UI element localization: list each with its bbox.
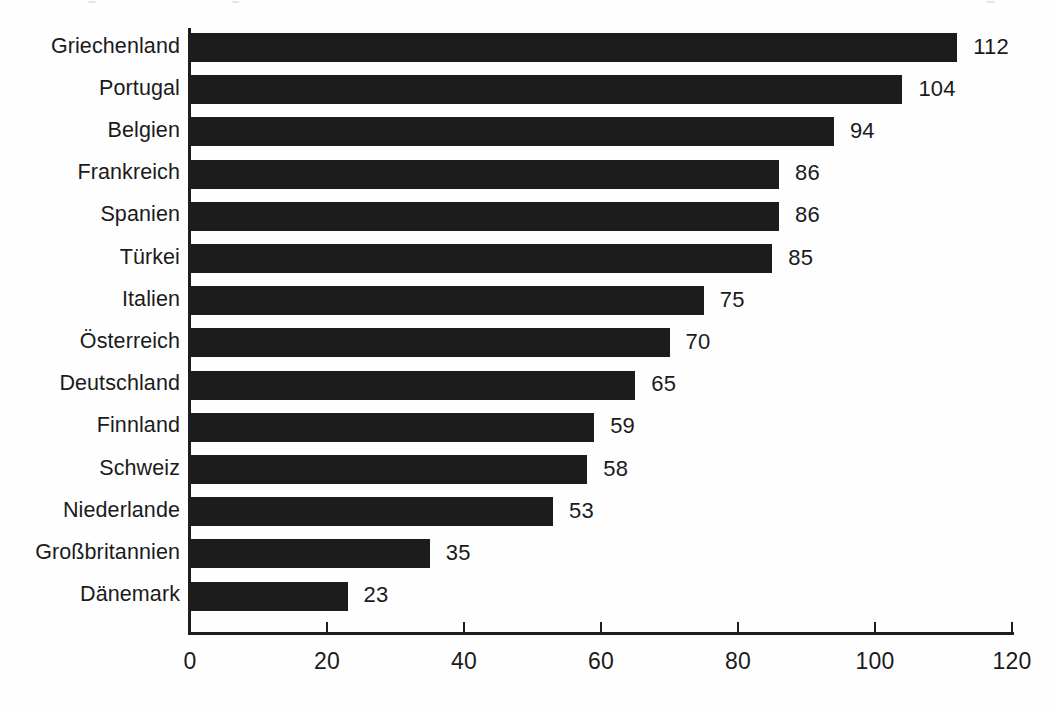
category-label: Portugal <box>99 76 180 101</box>
category-label: Finnland <box>97 413 180 438</box>
category-label: Frankreich <box>77 160 180 185</box>
bar-row: Deutschland65 <box>0 371 1057 400</box>
bar-row: Griechenland112 <box>0 33 1057 62</box>
bar-value-label: 94 <box>850 118 875 144</box>
x-axis-tick-label: 0 <box>184 648 197 675</box>
bar-row: Großbritannien35 <box>0 539 1057 568</box>
x-axis-tick <box>1011 622 1013 632</box>
category-label: Schweiz <box>99 456 180 481</box>
category-label: Deutschland <box>59 371 180 396</box>
bar-value-label: 65 <box>651 371 676 397</box>
x-axis-tick-label: 40 <box>451 648 477 675</box>
plot-area: 020406080100120Griechenland112Portugal10… <box>0 0 1057 710</box>
bar <box>190 160 779 189</box>
x-axis-tick-label: 120 <box>993 648 1032 675</box>
bar <box>190 75 902 104</box>
bar-value-label: 75 <box>720 287 745 313</box>
category-label: Österreich <box>80 329 180 354</box>
bar-row: Frankreich86 <box>0 160 1057 189</box>
bar <box>190 244 772 273</box>
category-label: Belgien <box>108 118 180 143</box>
bar-row: Österreich70 <box>0 328 1057 357</box>
bar <box>190 328 670 357</box>
bar-row: Finnland59 <box>0 413 1057 442</box>
category-label: Italien <box>122 287 180 312</box>
x-axis-tick <box>600 622 602 632</box>
bar-value-label: 70 <box>686 329 711 355</box>
x-axis-tick <box>463 622 465 632</box>
x-axis-line <box>188 632 1014 635</box>
bar-row: Niederlande53 <box>0 497 1057 526</box>
category-label: Türkei <box>120 245 180 270</box>
bar <box>190 117 834 146</box>
bar <box>190 371 635 400</box>
bar-row: Portugal104 <box>0 75 1057 104</box>
bar-chart: 020406080100120Griechenland112Portugal10… <box>0 0 1057 710</box>
bar <box>190 497 553 526</box>
bar <box>190 33 957 62</box>
category-label: Großbritannien <box>35 540 180 565</box>
x-axis-tick <box>326 622 328 632</box>
bar-row: Türkei85 <box>0 244 1057 273</box>
bar-row: Belgien94 <box>0 117 1057 146</box>
bar-value-label: 104 <box>918 76 955 102</box>
category-label: Spanien <box>100 202 180 227</box>
category-label: Dänemark <box>80 582 180 607</box>
bar-value-label: 86 <box>795 202 820 228</box>
bar <box>190 286 704 315</box>
bar-value-label: 112 <box>973 34 1009 60</box>
x-axis-tick <box>737 622 739 632</box>
bar-value-label: 53 <box>569 498 594 524</box>
bar-row: Spanien86 <box>0 202 1057 231</box>
bar-value-label: 59 <box>610 413 635 439</box>
x-axis-tick <box>874 622 876 632</box>
bar <box>190 202 779 231</box>
bar <box>190 539 430 568</box>
bar <box>190 413 594 442</box>
x-axis-tick-label: 60 <box>588 648 614 675</box>
x-axis-tick-label: 80 <box>725 648 751 675</box>
bar-row: Schweiz58 <box>0 455 1057 484</box>
bar-row: Dänemark23 <box>0 582 1057 611</box>
x-axis-tick-label: 100 <box>856 648 895 675</box>
category-label: Griechenland <box>51 34 180 59</box>
category-label: Niederlande <box>63 498 180 523</box>
bar-value-label: 86 <box>795 160 820 186</box>
bar <box>190 455 587 484</box>
bar-value-label: 85 <box>788 245 813 271</box>
x-axis-tick <box>189 622 191 632</box>
bar-value-label: 58 <box>603 456 628 482</box>
bar-value-label: 35 <box>446 540 471 566</box>
bar-value-label: 23 <box>364 582 389 608</box>
bar-row: Italien75 <box>0 286 1057 315</box>
bar <box>190 582 348 611</box>
x-axis-tick-label: 20 <box>314 648 340 675</box>
